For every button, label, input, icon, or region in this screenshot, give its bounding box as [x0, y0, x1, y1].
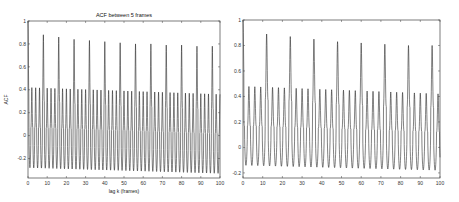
- y-tick-label: -0.2: [232, 170, 241, 176]
- x-tick-label: 50: [121, 180, 127, 186]
- x-tick-label: 60: [358, 180, 364, 186]
- x-tick-label: 0: [242, 180, 245, 186]
- acf-line: [28, 21, 220, 173]
- x-tick-label: 20: [280, 180, 286, 186]
- x-tick-label: 50: [339, 180, 345, 186]
- x-tick-label: 10: [260, 180, 266, 186]
- right-chart-panel: 0102030405060708090100-0.200.20.40.60.81: [230, 0, 459, 202]
- y-tick-label: -0.2: [17, 155, 26, 161]
- y-tick-label: 0.2: [234, 119, 241, 125]
- plot-area: [28, 21, 220, 173]
- y-tick-label: 0: [238, 144, 241, 150]
- x-tick-label: 40: [102, 180, 108, 186]
- x-tick-label: 90: [418, 180, 424, 186]
- x-tick-label: 20: [64, 180, 70, 186]
- y-axis-label: ACF: [3, 95, 9, 105]
- y-tick-label: 0.6: [19, 64, 26, 70]
- x-tick-label: 10: [44, 180, 50, 186]
- y-tick-label: 0.8: [234, 42, 241, 48]
- left-chart-panel: 0102030405060708090100-0.200.20.40.60.81…: [0, 0, 230, 202]
- y-tick-label: 0.2: [19, 109, 26, 115]
- x-tick-label: 60: [140, 180, 146, 186]
- y-tick-label: 1: [23, 18, 26, 24]
- y-tick-label: 0.4: [234, 93, 241, 99]
- y-tick-label: 0: [23, 132, 26, 138]
- x-axis-label: lag k (frames): [109, 188, 140, 194]
- x-tick-label: 100: [216, 180, 225, 186]
- acf-line: [243, 20, 440, 170]
- y-tick-label: 1: [238, 17, 241, 23]
- x-tick-label: 30: [83, 180, 89, 186]
- x-tick-label: 0: [27, 180, 30, 186]
- x-tick-label: 40: [319, 180, 325, 186]
- x-tick-label: 70: [378, 180, 384, 186]
- x-tick-label: 90: [198, 180, 204, 186]
- x-tick-label: 80: [398, 180, 404, 186]
- x-tick-label: 70: [160, 180, 166, 186]
- plot-area: [243, 20, 440, 170]
- x-tick-label: 80: [179, 180, 185, 186]
- x-tick-label: 30: [299, 180, 305, 186]
- y-tick-label: 0.8: [19, 41, 26, 47]
- y-tick-label: 0.6: [234, 68, 241, 74]
- y-tick-label: 0.4: [19, 86, 26, 92]
- acf-chart-left: 0102030405060708090100-0.200.20.40.60.81…: [0, 0, 230, 202]
- chart-title: ACF between 5 frames: [96, 12, 152, 18]
- acf-chart-right: 0102030405060708090100-0.200.20.40.60.81: [230, 0, 459, 202]
- x-tick-label: 100: [436, 180, 445, 186]
